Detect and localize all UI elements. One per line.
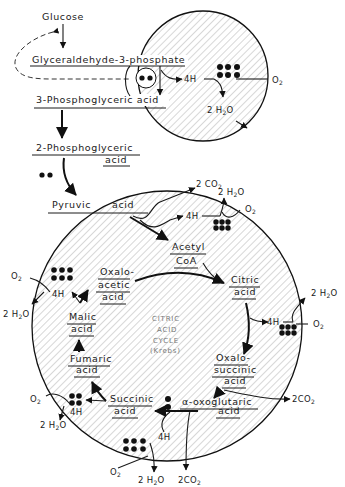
- g3p-label: Glyceraldehyde-3-phosphate: [32, 54, 185, 65]
- h2o-label-bottom: 2 H2O: [138, 475, 165, 486]
- pyruvic-label: Pyruvic: [52, 199, 91, 210]
- pga3-label: 3-Phosphoglyceric acid: [36, 94, 159, 105]
- coa-label: CoA: [176, 255, 197, 266]
- h2o-label-succinic: 2 H2O: [40, 420, 67, 431]
- membrane-bracket: [126, 66, 131, 96]
- oxoglutaric-label-2: acid: [218, 405, 240, 416]
- fumaric-label-2: acid: [76, 364, 98, 375]
- svg-text:CYCLE: CYCLE: [153, 337, 179, 345]
- oxalosuccinic-label: Oxalo-: [216, 352, 251, 363]
- oxaloacetic-label-2: acetic: [98, 279, 130, 290]
- o2-label-top: O2: [272, 75, 283, 86]
- citric-label-2: acid: [234, 286, 256, 297]
- co2-label-oxalosuccinic: 2CO2: [292, 394, 315, 405]
- h2o-label-citric: 2 H2O: [311, 288, 338, 299]
- malic-label-2: acid: [71, 323, 93, 334]
- pga2-acid-label: acid: [105, 154, 127, 165]
- o2-label-malic: O2: [11, 271, 22, 282]
- svg-text:CITRIC: CITRIC: [152, 315, 180, 323]
- h4-label-top: 4H: [184, 74, 196, 84]
- pga2-to-pyruvic-arrow: [64, 158, 77, 195]
- oxalosuccinic-label-2: succinic: [214, 364, 257, 375]
- h4-label-malic: 4H: [52, 289, 64, 299]
- svg-text:(Krebs): (Krebs): [150, 347, 181, 355]
- citric-label: Citric: [231, 274, 259, 285]
- cellular-respiration-diagram: Glucose Glyceraldehyde-3-phosphate 4H O2…: [0, 0, 345, 487]
- h4-label-succinic: 4H: [70, 407, 82, 417]
- h2o-label-pyruvate: 2 H2O: [218, 187, 245, 198]
- svg-text:ACID: ACID: [157, 326, 177, 334]
- h4-label-citric: 4H: [267, 317, 279, 327]
- fumaric-label: Fumaric: [70, 353, 112, 364]
- pyruvic-acid-label: acid: [112, 199, 134, 210]
- h4-label-oxoglutaric: 4H: [158, 432, 170, 442]
- top-mitochondrion: [138, 11, 268, 141]
- o2-label-succinic: O2: [30, 394, 41, 405]
- malic-label: Malic: [69, 311, 97, 322]
- o2-label-citric: O2: [313, 319, 324, 330]
- h2o-label-top: 2 H2O: [207, 105, 234, 116]
- o2-label-pyruvate: O2: [245, 204, 256, 215]
- oxaloacetic-label: Oxalo-: [100, 266, 135, 277]
- oxalosuccinic-label-3: acid: [224, 375, 246, 386]
- succinic-label-2: acid: [114, 405, 136, 416]
- co2-label-oxoglutaric: 2CO2: [178, 475, 201, 486]
- oxaloacetic-label-3: acid: [102, 291, 124, 302]
- pga2-label: 2-Phosphoglyceric: [36, 142, 133, 153]
- o2-label-bottom: O2: [110, 467, 121, 478]
- glucose-label: Glucose: [42, 11, 84, 22]
- h4-label-pyruvate: 4H: [186, 211, 198, 221]
- succinic-label: Succinic: [110, 393, 154, 404]
- nad-circle: [136, 68, 156, 88]
- acetyl-label: Acetyl: [172, 241, 205, 252]
- h2o-label-malic: 2 H2O: [3, 309, 30, 320]
